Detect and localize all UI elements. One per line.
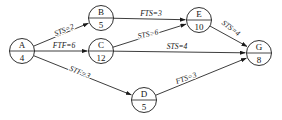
edge-c-g [113, 51, 245, 53]
edge-label-group-c-g: STS=4STS=4 [167, 42, 188, 51]
precedence-diagram: A4B5C12D5E10G8 STS=2STS=2FTF=6FTF=6STF=3… [0, 0, 282, 120]
edge-label-d-g: FTS=3 [173, 70, 197, 86]
edge-label-group-b-e: FTS=3FTS=3 [139, 9, 162, 18]
edge-label-b-e: FTS=3 [139, 9, 162, 18]
edge-label-c-g: STS=4 [167, 42, 188, 51]
edge-label-group-a-c: FTF=6FTF=6 [52, 41, 76, 50]
node-duration: 12 [97, 53, 106, 63]
node-label: C [98, 40, 104, 50]
node-e[interactable]: E10 [187, 8, 212, 33]
edge-label-e-g: STS=4 [220, 18, 242, 38]
node-duration: 5 [99, 20, 104, 30]
node-c[interactable]: C12 [89, 39, 114, 64]
node-g[interactable]: G8 [247, 41, 272, 66]
edge-label-group-c-e: STS=6STS=6 [137, 27, 159, 40]
node-label: G [256, 42, 263, 52]
node-d[interactable]: D5 [132, 88, 157, 113]
node-duration: 8 [257, 55, 262, 65]
node-duration: 4 [20, 53, 25, 63]
edge-d-g [156, 58, 247, 95]
edge-label-a-c: FTF=6 [52, 41, 76, 50]
node-duration: 5 [142, 102, 147, 112]
edge-label-group-a-b: STS=2STS=2 [53, 22, 76, 38]
edge-label-group-a-d: STF=3STF=3 [68, 64, 92, 81]
node-label: D [141, 89, 148, 99]
node-b[interactable]: B5 [89, 6, 114, 31]
edge-labels-layer: STS=2STS=2FTF=6FTF=6STF=3STF=3FTS=3FTS=3… [52, 9, 242, 87]
nodes-layer: A4B5C12D5E10G8 [10, 6, 272, 113]
node-duration: 10 [195, 22, 205, 32]
edge-label-group-d-g: FTS=3FTS=3 [173, 70, 197, 86]
node-label: B [98, 7, 104, 17]
node-a[interactable]: A4 [10, 39, 35, 64]
edge-label-a-b: STS=2 [53, 22, 76, 38]
node-label: E [196, 9, 202, 19]
edge-b-e [113, 18, 185, 19]
network-diagram-canvas: A4B5C12D5E10G8 STS=2STS=2FTF=6FTF=6STF=3… [0, 0, 282, 120]
edge-label-a-d: STF=3 [68, 64, 92, 81]
edge-label-c-e: STS=6 [137, 27, 159, 40]
node-label: A [19, 40, 26, 50]
edge-label-group-e-g: STS=4STS=4 [220, 18, 242, 38]
